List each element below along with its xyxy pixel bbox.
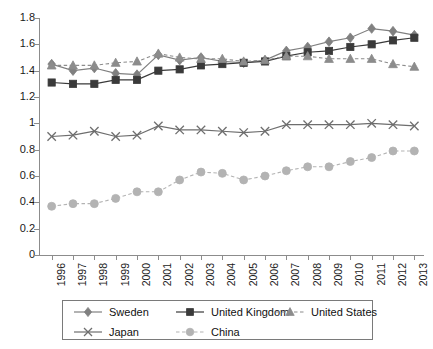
- legend-item-united-kingdom[interactable]: United Kingdom: [175, 302, 289, 322]
- x-axis-tick-mark: [414, 255, 415, 260]
- data-point-marker: [261, 127, 269, 135]
- data-point-marker: [90, 200, 98, 208]
- legend-label: Japan: [109, 326, 139, 338]
- y-axis-tick-label: 1.8: [0, 12, 35, 23]
- legend-item-japan[interactable]: Japan: [73, 322, 139, 342]
- data-point-marker: [133, 76, 140, 83]
- data-point-marker: [90, 127, 98, 135]
- x-axis-tick-mark: [180, 255, 181, 260]
- data-point-marker: [175, 53, 184, 61]
- data-point-marker: [325, 54, 334, 62]
- data-point-marker: [155, 67, 162, 74]
- x-axis-tick-label: 2007: [290, 263, 301, 286]
- data-point-marker: [48, 79, 55, 86]
- y-axis-tick-label: 1: [0, 117, 35, 128]
- chart-figure: 00.20.40.60.811.21.41.61.8 1996199719981…: [0, 0, 433, 349]
- data-point-marker: [389, 37, 396, 44]
- data-point-marker: [367, 119, 375, 127]
- y-axis-tick-mark: [34, 97, 39, 98]
- x-axis-tick-label: 2005: [248, 263, 259, 286]
- data-point-marker: [411, 30, 419, 40]
- data-point-marker: [261, 55, 269, 65]
- series-china: [48, 147, 419, 210]
- y-axis-tick-label: 0.4: [0, 196, 35, 207]
- data-point-marker: [176, 55, 184, 65]
- x-axis-tick-mark: [158, 255, 159, 260]
- x-axis-tick-label: 2009: [333, 263, 344, 286]
- legend-row: JapanChina: [63, 322, 372, 342]
- data-point-marker: [410, 62, 419, 70]
- legend-item-sweden[interactable]: Sweden: [73, 302, 149, 322]
- data-point-marker: [325, 120, 333, 128]
- legend-item-united-states[interactable]: United States: [275, 302, 377, 322]
- data-point-marker: [47, 61, 56, 69]
- data-point-marker: [346, 158, 354, 166]
- data-point-marker: [240, 58, 248, 68]
- data-point-marker: [368, 24, 376, 34]
- x-axis-tick-label: 2004: [226, 263, 237, 286]
- y-axis-tick-mark: [34, 176, 39, 177]
- circle-marker-icon: [175, 325, 205, 339]
- y-axis-tick-mark: [34, 150, 39, 151]
- data-point-marker: [69, 80, 76, 87]
- x-axis-tick-label: 2006: [269, 263, 280, 286]
- y-axis-line: [39, 18, 40, 256]
- x-axis-tick-mark: [244, 255, 245, 260]
- data-point-marker: [219, 57, 227, 67]
- legend-label: United States: [311, 306, 377, 318]
- data-point-marker: [410, 147, 418, 155]
- data-point-marker: [239, 128, 247, 136]
- data-point-marker: [69, 66, 77, 76]
- series-line: [52, 123, 415, 136]
- data-point-marker: [347, 43, 354, 50]
- x-axis-tick-mark: [308, 255, 309, 260]
- x-axis-tick-label: 1997: [77, 263, 88, 286]
- data-point-marker: [69, 200, 77, 208]
- data-point-marker: [346, 54, 355, 62]
- data-point-marker: [90, 61, 99, 69]
- data-point-marker: [261, 56, 270, 64]
- data-point-marker: [304, 42, 312, 52]
- x-axis-tick-label: 2013: [418, 263, 429, 286]
- series-united-states: [47, 49, 418, 70]
- y-axis-tick-mark: [34, 229, 39, 230]
- y-axis-tick-mark: [34, 202, 39, 203]
- series-line: [52, 38, 415, 84]
- data-point-marker: [411, 34, 418, 41]
- data-point-marker: [389, 120, 397, 128]
- data-point-marker: [218, 169, 226, 177]
- legend-item-china[interactable]: China: [175, 322, 240, 342]
- data-point-marker: [155, 50, 163, 60]
- data-point-marker: [347, 33, 355, 43]
- data-point-marker: [133, 188, 141, 196]
- x-axis-tick-label: 2002: [184, 263, 195, 286]
- triangle-marker-icon: [275, 305, 305, 319]
- legend-row: SwedenUnited KingdomUnited States: [63, 302, 372, 322]
- x-axis-tick-label: 2012: [397, 263, 408, 286]
- y-axis-tick-mark: [34, 44, 39, 45]
- legend-label: China: [211, 326, 240, 338]
- data-point-marker: [197, 62, 204, 69]
- data-point-marker: [367, 54, 376, 62]
- data-point-marker: [410, 122, 418, 130]
- data-point-marker: [282, 167, 290, 175]
- x-axis-tick-mark: [329, 255, 330, 260]
- data-point-marker: [368, 41, 375, 48]
- data-point-marker: [133, 131, 141, 139]
- x-axis-line: [39, 255, 424, 256]
- square-marker-icon: [175, 305, 205, 319]
- data-point-marker: [240, 59, 247, 66]
- chart-legend: SwedenUnited KingdomUnited StatesJapanCh…: [62, 300, 373, 340]
- y-axis-tick-mark: [34, 255, 39, 256]
- data-point-marker: [48, 59, 56, 69]
- data-point-marker: [133, 57, 142, 65]
- data-point-marker: [346, 120, 354, 128]
- data-point-marker: [389, 59, 398, 67]
- data-point-marker: [240, 176, 248, 184]
- data-point-marker: [389, 26, 397, 36]
- y-axis-tick-label: 1.4: [0, 65, 35, 76]
- x-axis-tick-label: 2003: [205, 263, 216, 286]
- y-axis-tick-mark: [34, 71, 39, 72]
- data-point-marker: [283, 53, 290, 60]
- y-axis-tick-label: 1.6: [0, 38, 35, 49]
